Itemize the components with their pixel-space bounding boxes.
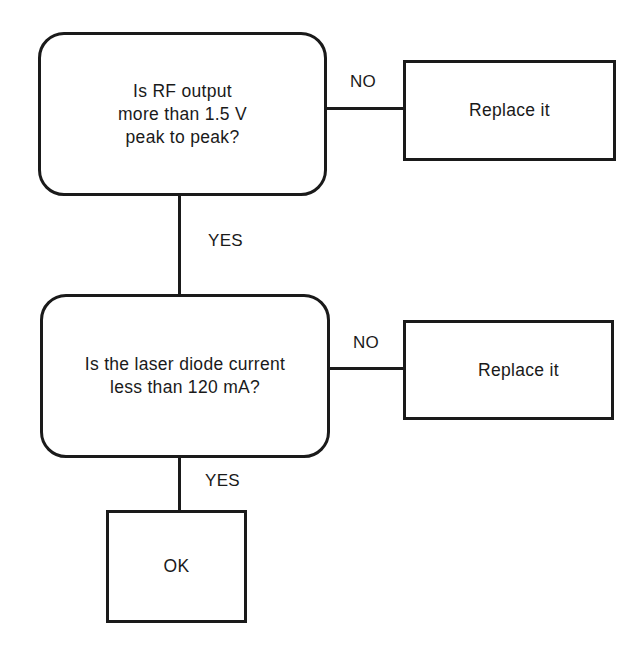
- action-replace-rf-text: Replace it: [469, 99, 550, 122]
- edge-no-2-label: NO: [353, 333, 379, 353]
- decision-rf-output: Is RF output more than 1.5 V peak to pea…: [38, 32, 327, 196]
- decision-rf-output-text: Is RF output more than 1.5 V peak to pea…: [118, 80, 247, 149]
- edge-yes-2-label: YES: [205, 471, 240, 491]
- edge-no-2: [330, 367, 404, 370]
- action-replace-rf: Replace it: [403, 60, 616, 161]
- decision-laser-current: Is the laser diode current less than 120…: [40, 294, 330, 458]
- action-replace-laser: Replace it: [403, 320, 614, 420]
- edge-no-1-label: NO: [350, 72, 376, 92]
- terminal-ok: OK: [106, 510, 247, 623]
- edge-yes-1: [178, 196, 181, 295]
- edge-yes-2: [178, 458, 181, 511]
- decision-laser-current-text: Is the laser diode current less than 120…: [85, 353, 285, 399]
- terminal-ok-text: OK: [164, 555, 190, 578]
- action-replace-laser-text: Replace it: [478, 359, 559, 382]
- edge-no-1: [327, 107, 404, 110]
- edge-yes-1-label: YES: [208, 231, 243, 251]
